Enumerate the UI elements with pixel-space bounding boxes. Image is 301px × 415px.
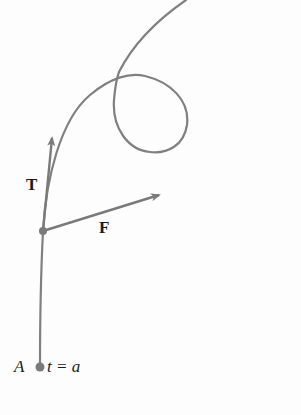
point-on-curve (39, 227, 47, 235)
curve-diagram (0, 0, 301, 415)
force-label: F (99, 218, 109, 238)
start-point-label: A (14, 357, 24, 377)
figure-page: T F A t = a (0, 0, 301, 415)
tangent-vector-arrow (43, 138, 52, 231)
tangent-label: T (26, 175, 37, 195)
path-curve (40, 0, 187, 367)
start-point-a (36, 363, 45, 372)
parameter-label: t = a (47, 357, 80, 377)
